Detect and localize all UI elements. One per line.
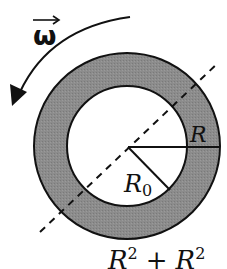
formula-term2-exponent: 2	[195, 244, 205, 263]
rotation-arrowhead-icon	[10, 84, 27, 106]
inner-radius-base: R	[124, 170, 142, 198]
formula-term1-exponent: 2	[128, 244, 138, 263]
formula-term1: R	[108, 245, 128, 269]
formula-operator: +	[138, 245, 176, 269]
formula-term2: R	[176, 245, 196, 269]
inner-radius-label: R0	[124, 172, 152, 199]
omega-label: ω	[33, 22, 56, 49]
inner-radius-subscript: 0	[142, 181, 152, 200]
outer-radius-label: R	[190, 124, 207, 146]
partial-formula: R2+R2	[108, 246, 205, 269]
